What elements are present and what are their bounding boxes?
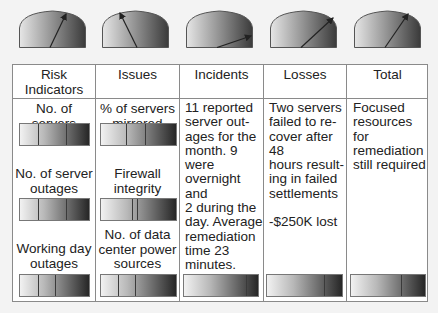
issues-gauge	[102, 10, 169, 48]
incidents-description: 11 reported server out- ages for the mon…	[185, 101, 263, 273]
header-text: Issues	[118, 67, 157, 82]
risk-indicators-gauge	[19, 10, 86, 48]
header-incidents: Incidents	[180, 65, 263, 98]
header-risk-indicators: Risk Indicators	[13, 65, 95, 98]
total-gauge	[354, 10, 421, 48]
column-divider	[179, 65, 180, 301]
header-issues: Issues	[96, 65, 179, 98]
header-divider	[13, 98, 427, 99]
risk-indicator-bar	[19, 123, 90, 146]
header-text: Risk	[25, 67, 84, 82]
issue-label: Firewall integrity	[96, 167, 179, 196]
risk-indicator-label: Working day outages	[13, 242, 95, 271]
gauge-dial-icon	[19, 10, 86, 48]
header-text: Total	[373, 67, 402, 82]
losses-amount: -$250K lost	[269, 215, 347, 229]
total-description: Focused resources for remediation still …	[353, 101, 429, 172]
column-divider	[263, 65, 264, 301]
incidents-gauge	[186, 10, 253, 48]
losses-bar	[266, 274, 343, 297]
gauge-dial-icon	[270, 10, 337, 48]
header-text: Incidents	[194, 67, 248, 82]
risk-dashboard-table: Risk Indicators Issues Incidents Losses …	[12, 64, 428, 302]
losses-gauge	[270, 10, 337, 48]
issue-label: No. of data center power sources	[96, 228, 179, 272]
risk-indicator-bar	[19, 274, 90, 297]
gauge-dial-icon	[102, 10, 169, 48]
incidents-bar	[183, 274, 259, 297]
issue-bar	[100, 274, 177, 297]
gauge-dial-icon	[186, 10, 253, 48]
header-total: Total	[347, 65, 428, 98]
losses-description: Two servers failed to re- cover after 48…	[269, 101, 347, 230]
issue-bar	[100, 198, 177, 221]
risk-indicator-bar	[19, 198, 90, 221]
header-losses: Losses	[264, 65, 346, 98]
issue-bar	[100, 123, 177, 146]
header-text: Losses	[284, 67, 327, 82]
risk-indicator-label: No. of server outages	[13, 167, 95, 196]
gauge-dial-icon	[354, 10, 421, 48]
header-text: Indicators	[25, 82, 84, 97]
total-bar	[350, 274, 426, 297]
